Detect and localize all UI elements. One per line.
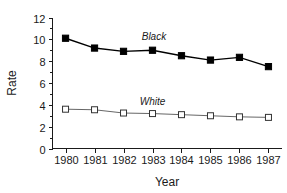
data-point-white [121,110,127,116]
series-label-white: White [140,96,166,107]
data-point-black [265,64,271,70]
chart-container: 024681012 198019811982198319841985198619… [0,0,287,193]
y-axis-title: Rate [5,70,19,96]
data-point-white [265,114,271,120]
data-point-black [149,47,155,53]
x-tick-label: 1981 [83,154,107,166]
data-series [62,35,271,120]
data-point-white [63,106,69,112]
y-tick-label: 12 [33,13,45,25]
x-axis-tick-labels: 19801981198219831984198519861987 [54,154,280,166]
x-tick-label: 1980 [54,154,78,166]
x-axis-title: Year [155,175,179,189]
data-point-black [236,54,242,60]
series-annotations: BlackWhite [140,31,167,107]
x-tick-label: 1983 [141,154,165,166]
y-tick-label: 2 [39,122,45,134]
x-tick-label: 1984 [169,154,193,166]
data-point-black [178,53,184,59]
axes [53,18,282,149]
y-tick-label: 6 [39,78,45,90]
data-point-black [207,57,213,63]
x-axis-ticks [67,149,269,153]
data-point-white [236,114,242,120]
x-tick-label: 1982 [112,154,136,166]
x-tick-label: 1986 [227,154,251,166]
data-point-white [92,107,98,113]
y-tick-label: 4 [39,100,45,112]
line-chart: 024681012 198019811982198319841985198619… [0,0,287,193]
x-tick-label: 1985 [198,154,222,166]
y-axis-ticks [49,19,53,150]
y-tick-label: 8 [39,56,45,68]
y-tick-label: 10 [33,34,45,46]
data-point-white [178,112,184,118]
y-tick-label: 0 [39,144,45,156]
data-point-black [91,45,97,51]
x-tick-label: 1987 [256,154,280,166]
data-point-black [120,48,126,54]
data-point-white [150,111,156,117]
data-point-white [207,113,213,119]
y-axis-tick-labels: 024681012 [33,13,45,156]
data-point-black [62,35,68,41]
series-line-black [66,38,269,66]
series-label-black: Black [142,31,167,42]
